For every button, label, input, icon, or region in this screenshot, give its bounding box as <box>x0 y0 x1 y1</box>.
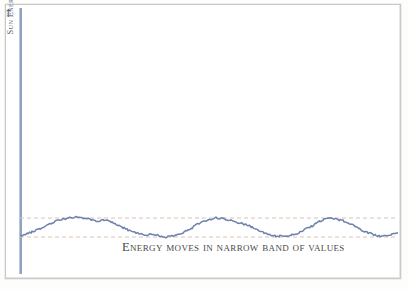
sun-energy-series-line <box>20 217 398 238</box>
waveform-plot <box>20 8 398 274</box>
figure-container: ↑ Sun Energy Energy moves in narrow band… <box>0 0 408 289</box>
chart-caption: Energy moves in narrow band of values <box>122 240 345 255</box>
plot-area <box>20 8 398 274</box>
y-axis-label: Sun Energy <box>5 0 15 61</box>
